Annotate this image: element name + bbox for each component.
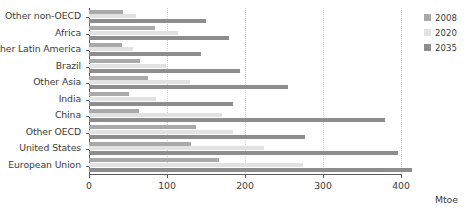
x-tick-label-300: 300 [314,180,332,191]
bar-2008 [89,26,155,30]
legend-label: 2035 [435,43,457,53]
bar-2035 [89,52,201,56]
bar-group [89,9,401,26]
bar-2020 [89,14,136,18]
legend-label: 2020 [435,28,457,38]
bar-group [89,92,401,109]
legend-label: 2008 [435,13,457,23]
bar-chart: Other non-OECDAfricaOther Latin AmericaB… [0,0,466,215]
bar-group [89,125,401,142]
legend-swatch-icon [424,14,431,21]
bar-2008 [89,142,191,146]
category-label: Other OECD [26,126,81,137]
bar-group [89,75,401,92]
bar-2008 [89,125,196,129]
category-label: United States [19,142,81,153]
legend-item[interactable]: 2008 [424,10,466,25]
bar-2008 [89,76,148,80]
bar-group [89,42,401,59]
bar-2008 [89,109,139,113]
bar-2020 [89,80,190,84]
gridline-400 [401,8,402,173]
bar-2020 [89,47,133,51]
x-tick-label-0: 0 [86,180,92,191]
bar-2008 [89,92,129,96]
x-tick-400 [401,174,402,178]
category-label: Other Asia [33,76,81,87]
bar-group [89,59,401,76]
bar-2020 [89,146,264,150]
bar-2035 [89,85,288,89]
bar-2035 [89,69,240,73]
category-axis-labels: Other non-OECDAfricaOther Latin AmericaB… [0,8,85,173]
bar-2020 [89,97,156,101]
category-label: India [59,93,81,104]
bar-2020 [89,64,166,68]
bar-2035 [89,19,206,23]
category-label: Other non-OECD [5,10,81,21]
bar-2035 [89,36,229,40]
bar-2035 [89,168,412,172]
bar-2020 [89,163,303,167]
plot-area [89,8,401,173]
bar-2035 [89,102,233,106]
x-tick-label-100: 100 [158,180,176,191]
bar-2035 [89,135,305,139]
x-axis-title: Mtoe [435,194,458,205]
bar-2020 [89,113,222,117]
bar-group [89,26,401,43]
bar-2020 [89,130,233,134]
category-label: Brazil [56,60,81,71]
bar-2008 [89,43,122,47]
x-tick-label-200: 200 [236,180,254,191]
x-tick-200 [245,174,246,178]
x-tick-label-400: 400 [392,180,410,191]
bar-group [89,158,401,175]
bar-group [89,108,401,125]
x-tick-100 [167,174,168,178]
category-label: European Union [8,159,81,170]
category-label: China [55,109,81,120]
x-tick-300 [323,174,324,178]
category-label: Other Latin America [0,43,81,54]
legend-item[interactable]: 2020 [424,25,466,40]
x-tick-0 [89,174,90,178]
bar-2035 [89,118,385,122]
bar-2020 [89,31,178,35]
bar-2008 [89,59,140,63]
category-label: Africa [55,27,81,38]
bar-2008 [89,10,123,14]
bar-2008 [89,158,219,162]
bar-2035 [89,151,398,155]
legend-swatch-icon [424,44,431,51]
legend-swatch-icon [424,29,431,36]
legend-item[interactable]: 2035 [424,40,466,55]
legend: 200820202035 [424,10,466,55]
bar-group [89,141,401,158]
